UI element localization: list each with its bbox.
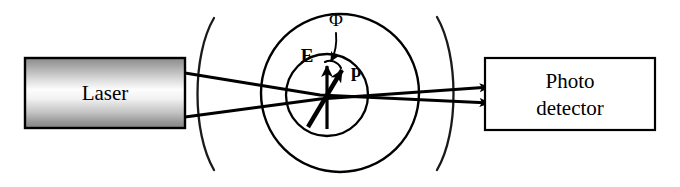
angle-phi: Φ	[325, 9, 343, 68]
vector-e-label: E	[301, 45, 314, 66]
detector-label-line2: detector	[536, 96, 604, 120]
laser-label: Laser	[82, 81, 129, 105]
angle-leader-line	[331, 33, 336, 61]
vector-p-label: p	[351, 60, 362, 81]
wavefront-left-arc	[198, 18, 215, 170]
angle-phi-label: Φ	[329, 9, 343, 30]
photo-detector: Photo detector	[485, 58, 655, 130]
wavefront-right-arc	[437, 17, 454, 170]
diagram-canvas: Laser E p Φ	[0, 0, 680, 187]
laser-scattering-diagram: Laser E p Φ	[0, 0, 680, 187]
detector-label-line1: Photo	[545, 69, 594, 93]
laser-source: Laser	[25, 58, 185, 128]
